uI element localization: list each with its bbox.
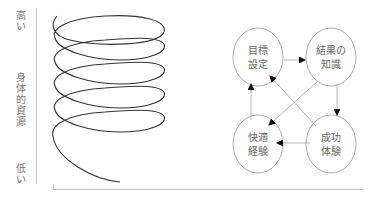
node-label: 体験	[321, 145, 341, 157]
node-knowledge-of-results: 結果の 知識	[306, 28, 356, 86]
arrow-knowledge-to-comfort	[269, 81, 318, 125]
node-label: 設定	[248, 58, 268, 70]
arrow-success-to-goal	[270, 76, 316, 126]
descending-spiral	[53, 16, 165, 182]
node-comfortable-experience: 快適 経験	[233, 115, 283, 173]
node-label: 知識	[321, 58, 341, 70]
node-label: 経験	[248, 145, 268, 157]
node-label: 快適	[248, 131, 268, 143]
node-label: 目標	[248, 44, 268, 56]
node-label: 成功	[321, 132, 341, 143]
figure-canvas: 目標 設定 結果の 知識 快適 経験 成功 体験	[0, 0, 368, 199]
node-goal-setting: 目標 設定	[233, 28, 283, 86]
node-label: 結果の	[316, 44, 346, 56]
